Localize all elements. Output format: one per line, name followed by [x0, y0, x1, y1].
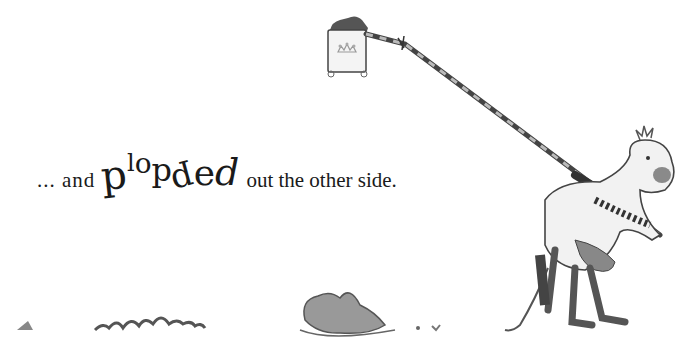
crown-banner-icon	[328, 16, 368, 77]
story-caption: ... and p l o p p e d out the other side…	[37, 150, 397, 210]
caption-emphasis-plopped: p l o p p e d	[101, 150, 239, 196]
caption-lead: ... and	[37, 168, 95, 193]
emphasis-letter: l	[127, 149, 135, 177]
knight-horse-icon	[505, 126, 674, 330]
emphasis-letter: o	[135, 147, 152, 180]
emphasis-letter: p	[99, 151, 129, 199]
emphasis-letter: e	[194, 152, 215, 193]
caption-tail: out the other side.	[246, 168, 396, 193]
ground-debris-icon	[17, 293, 440, 336]
emphasis-letter: d	[215, 150, 239, 194]
